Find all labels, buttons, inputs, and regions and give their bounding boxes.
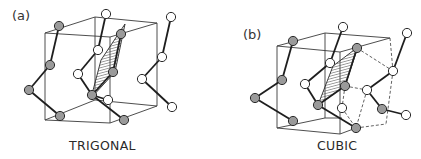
atomic-bond — [29, 90, 60, 116]
atom-grey — [277, 75, 286, 84]
atom-grey — [116, 29, 125, 38]
unit-cell-edge — [277, 128, 340, 134]
atom-white — [101, 9, 110, 18]
atom-grey — [313, 100, 322, 109]
atom-grey — [54, 21, 63, 30]
atom-grey — [340, 81, 349, 90]
atom-white — [338, 22, 347, 31]
dashed-cell-edge — [357, 48, 393, 71]
crystal-structure-figure: (a) TRIGONAL (b) CUBIC — [0, 0, 421, 159]
atom-white — [325, 58, 334, 67]
atom-white — [401, 110, 410, 119]
atom-grey — [45, 60, 54, 69]
atom-grey — [119, 115, 128, 124]
atom-white — [362, 85, 371, 94]
atomic-bond — [393, 33, 407, 71]
atom-grey — [351, 123, 360, 132]
atom-white — [103, 95, 112, 104]
atomic-bond — [98, 14, 106, 50]
atom-white — [402, 28, 411, 37]
atom-grey — [250, 93, 259, 102]
atom-white — [137, 74, 146, 83]
atom-grey — [288, 116, 297, 125]
atom-white — [388, 66, 397, 75]
unit-cell-edge — [325, 33, 390, 38]
hatched-plane — [318, 47, 358, 105]
caption-trigonal: TRIGONAL — [69, 138, 136, 153]
cubic-structure — [250, 22, 411, 134]
dashed-cell-edge — [356, 90, 367, 128]
panel-label-b: (b) — [243, 27, 261, 42]
atom-white — [167, 102, 176, 111]
atom-grey — [55, 111, 64, 120]
crystal-diagram-svg — [0, 0, 421, 159]
atom-white — [73, 69, 82, 78]
atom-white — [93, 45, 102, 54]
atom-grey — [352, 43, 361, 52]
atomic-bond — [255, 98, 293, 121]
atom-grey — [24, 85, 33, 94]
unit-cell-edge — [45, 120, 110, 123]
atom-grey — [377, 104, 386, 113]
atom-grey — [108, 67, 117, 76]
unit-cell-edge — [277, 46, 340, 52]
dashed-cell-edge — [386, 71, 393, 124]
atom-white — [166, 12, 175, 21]
unit-cell-edge — [340, 38, 390, 52]
atom-grey — [87, 90, 96, 99]
caption-cubic: CUBIC — [317, 138, 357, 153]
trigonal-structure — [24, 9, 176, 124]
unit-cell-edge — [45, 17, 95, 33]
atom-white — [300, 79, 309, 88]
unit-cell-edge — [277, 33, 325, 46]
atomic-bond — [330, 27, 343, 63]
atom-white — [337, 103, 346, 112]
atomic-bond — [162, 17, 171, 57]
atom-grey — [288, 36, 297, 45]
atom-white — [157, 52, 166, 61]
atomic-bond — [50, 26, 59, 65]
unit-cell-edge — [277, 118, 325, 128]
panel-label-a: (a) — [12, 8, 30, 23]
